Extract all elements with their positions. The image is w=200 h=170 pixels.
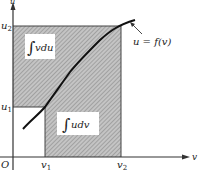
x-axis-label: v: [192, 152, 197, 162]
u2-tick-label: u2: [1, 20, 12, 33]
vdu-label: vdu: [35, 42, 54, 53]
y-axis-label: u: [10, 0, 15, 6]
curve-label: u = f(v): [133, 36, 171, 47]
v1-tick-label: v1: [41, 159, 51, 170]
integration-by-parts-diagram: ∫ vdu ∫ udv u v O u2 u1 v1 v2 u = f(v): [0, 0, 200, 170]
udv-integral-sign: ∫: [62, 115, 70, 134]
v2-tick-label: v2: [117, 159, 127, 170]
u1-tick-label: u1: [1, 101, 12, 114]
x-axis-arrow-icon: [182, 155, 190, 160]
origin-label: O: [1, 159, 9, 170]
udv-label: udv: [71, 119, 90, 130]
